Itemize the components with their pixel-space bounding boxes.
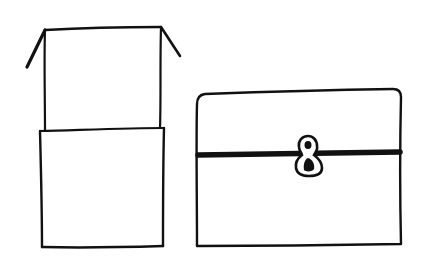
open-box (27, 27, 180, 247)
clasp-icon (296, 136, 322, 176)
boxes-drawing (0, 0, 421, 262)
illustration-canvas: Two hand-drawn boxes: an open box with l… (0, 0, 421, 262)
